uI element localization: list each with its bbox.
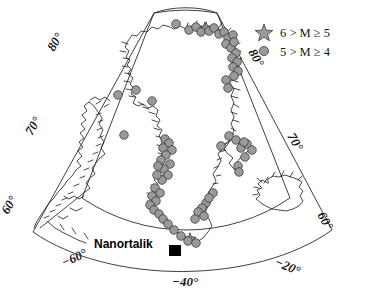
earthquake-marker-circle [230,38,239,47]
labrador-coast-detail [48,222,88,243]
earthquake-marker-circle [224,84,233,93]
iceland-coastline [256,175,303,211]
earthquake-marker-circle [114,91,123,100]
lat-label-80-left: 80° [44,30,67,54]
legend: 6 > M ≥ 5 5 > M ≥ 4 [255,24,331,59]
earthquake-marker-circle [241,153,250,162]
lat-label-70-right: 70° [284,130,306,154]
earthquake-marker-circle [197,28,206,37]
earthquake-marker-circle [248,146,257,155]
star-icon [255,24,273,41]
earthquake-marker-circle [172,20,181,29]
lat-label-60-right: 60° [314,209,336,233]
lon-label-minus40: −40° [172,274,199,289]
map-canvas: 80° 80° 70° 70° 60° 60° −60° −40° −20° N… [0,0,367,299]
map-figure: 80° 80° 70° 70° 60° 60° −60° −40° −20° N… [0,0,367,299]
earthquake-marker-circle [240,138,249,147]
city-annotation-nanortalik: Nanortalik [94,237,181,256]
legend-label-circle: 5 > M ≥ 4 [280,45,331,59]
lon-label-minus20: −20° [273,254,304,279]
earthquake-marker-circle [205,194,214,203]
earthquake-marker-circle [192,239,201,248]
iceland-fjords-detail [253,171,302,195]
earthquake-marker-circle [156,189,165,198]
nanortalik-label: Nanortalik [94,237,153,251]
frame-outline [82,10,290,230]
canada-coastline [34,102,89,228]
legend-label-star: 6 > M ≥ 5 [280,26,330,40]
earthquake-marker-circle [235,168,244,177]
lat-label-60-left: 60° [0,193,20,217]
earthquake-marker-circle [184,237,193,246]
circle-icon [259,46,268,55]
lat-label-70-left: 70° [22,114,45,138]
earthquake-marker-circle [154,162,163,171]
earthquake-marker-circle [230,72,239,81]
earthquake-marker-circle [120,131,129,140]
legend-item-circle: 5 > M ≥ 4 [259,45,330,59]
earthquake-marker-circle [191,215,200,224]
graticule-labels: 80° 80° 70° 70° 60° 60° −60° −40° −20° [0,30,337,289]
earthquake-marker-circle [170,226,179,235]
nanortalik-square-marker [169,245,181,256]
earthquake-marker-circle [200,212,209,221]
baffin-south-islands [58,196,84,219]
earthquake-markers [114,20,257,248]
earthquake-marker-circle [222,76,231,85]
legend-item-star: 6 > M ≥ 5 [255,24,330,41]
earthquake-marker-circle [148,97,157,106]
earthquake-marker-circle [153,171,162,180]
earthquake-marker-circle [132,86,141,95]
earthquake-marker-circle [217,142,226,151]
earthquake-marker-circle [232,136,241,145]
